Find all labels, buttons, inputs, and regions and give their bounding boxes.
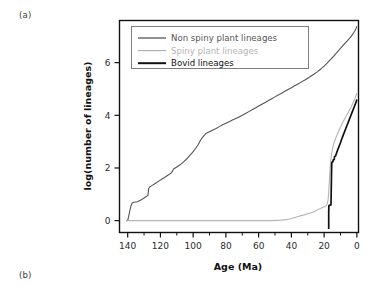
x-tick-label: 40 (286, 241, 298, 251)
legend-entry-label: Non spiny plant lineages (171, 33, 278, 43)
x-tick-label: 120 (152, 241, 169, 251)
legend-entry-label: Spiny plant lineages (171, 46, 259, 56)
series-line (329, 100, 357, 230)
figure-panel-a: (a) (b) 140120100806040200 0246 Age (Ma)… (0, 0, 379, 290)
x-tick-label: 20 (318, 241, 330, 251)
y-axis-tick-labels: 0246 (105, 58, 111, 226)
y-axis-major-ticks (115, 63, 120, 221)
y-axis-title: log(number of lineages) (82, 62, 93, 191)
x-tick-label: 0 (354, 241, 360, 251)
legend-entry-label: Bovid lineages (171, 58, 234, 68)
x-tick-label: 60 (253, 241, 265, 251)
y-tick-label: 4 (105, 111, 111, 121)
y-tick-label: 0 (105, 216, 111, 226)
x-tick-label: 140 (119, 241, 136, 251)
x-tick-label: 100 (185, 241, 202, 251)
y-tick-label: 2 (105, 163, 111, 173)
x-tick-label: 80 (220, 241, 232, 251)
x-axis-tick-labels: 140120100806040200 (119, 241, 360, 251)
lineage-through-time-chart: 140120100806040200 0246 Age (Ma) log(num… (0, 0, 379, 290)
series-line (126, 93, 357, 220)
x-axis-title: Age (Ma) (214, 261, 262, 272)
chart-legend: Non spiny plant lineagesSpiny plant line… (132, 27, 309, 69)
y-tick-label: 6 (105, 58, 111, 68)
